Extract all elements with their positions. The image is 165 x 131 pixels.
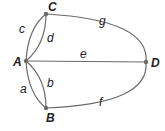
- vertex-label-D: D: [151, 56, 160, 70]
- edge-f: [46, 62, 146, 108]
- vertex-label-B: B: [46, 111, 55, 125]
- vertex-label-A: A: [12, 55, 22, 69]
- edge-g: [46, 14, 146, 62]
- edge-label-a: a: [20, 82, 27, 96]
- graph-diagram: C A B D c d e g a b f: [0, 0, 165, 131]
- edge-c: [26, 14, 46, 61]
- vertex-A: [24, 59, 28, 63]
- edge-e: [26, 61, 146, 62]
- vertex-B: [44, 106, 48, 110]
- edge-label-b: b: [47, 76, 54, 90]
- edge-label-g: g: [99, 14, 106, 28]
- edge-a: [26, 61, 46, 108]
- edge-label-f: f: [99, 95, 104, 109]
- vertex-D: [144, 60, 148, 64]
- edge-label-c: c: [19, 22, 25, 36]
- edge-label-d: d: [47, 31, 54, 45]
- edge-b: [26, 61, 46, 108]
- edge-d: [26, 14, 46, 61]
- edge-label-e: e: [80, 47, 87, 61]
- vertex-label-C: C: [48, 0, 57, 14]
